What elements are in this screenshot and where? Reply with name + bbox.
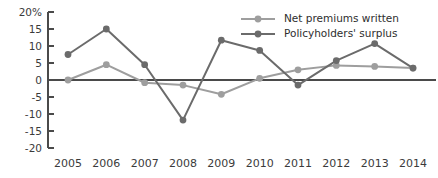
- x-tick-label: 2014: [399, 157, 427, 170]
- x-tick-label: 2013: [361, 157, 389, 170]
- y-tick-label: -15: [25, 125, 42, 137]
- y-tick-label: 0: [35, 74, 42, 86]
- data-point: [256, 47, 263, 54]
- y-tick-label: -5: [32, 91, 42, 103]
- x-tick-label: 2008: [169, 157, 197, 170]
- y-tick-label: 15: [29, 23, 42, 35]
- y-tick-label: -20: [25, 142, 42, 154]
- chart-canvas: 20%151050-5-10-15-20 2005200620072008200…: [0, 0, 438, 178]
- y-tick-label: 5: [35, 57, 42, 69]
- data-point: [371, 63, 378, 70]
- data-point: [295, 82, 302, 89]
- data-point: [141, 79, 148, 86]
- y-tick-labels: 20%151050-5-10-15-20: [19, 6, 42, 154]
- x-tick-labels: 2005200620072008200920102011201220132014: [54, 157, 427, 170]
- data-point: [333, 57, 340, 64]
- y-tick-label: -10: [25, 108, 42, 120]
- x-tick-label: 2005: [54, 157, 82, 170]
- legend-label: Policyholders' surplus: [284, 27, 398, 39]
- data-point: [180, 117, 187, 124]
- data-point: [218, 91, 225, 98]
- data-point: [410, 65, 417, 72]
- data-point: [218, 37, 225, 44]
- legend-label: Net premiums written: [284, 12, 399, 24]
- data-point: [256, 75, 263, 82]
- x-tick-label: 2011: [284, 157, 312, 170]
- data-point: [295, 66, 302, 73]
- series-line-2: [68, 29, 413, 120]
- x-tick-label: 2009: [207, 157, 235, 170]
- y-tick-label: 20%: [19, 6, 42, 18]
- series-lines: [68, 29, 413, 120]
- y-tick-label: 10: [29, 40, 42, 52]
- data-point: [180, 82, 187, 89]
- x-tick-label: 2007: [131, 157, 159, 170]
- line-chart: 20%151050-5-10-15-20 2005200620072008200…: [0, 0, 438, 178]
- x-tick-label: 2012: [322, 157, 350, 170]
- data-point: [141, 61, 148, 68]
- data-point: [65, 51, 72, 58]
- x-tick-label: 2010: [246, 157, 274, 170]
- data-point: [103, 61, 110, 68]
- legend-swatch-marker: [255, 31, 262, 38]
- legend-swatch-marker: [255, 16, 262, 23]
- chart-legend: Net premiums writtenPolicyholders' surpl…: [241, 12, 399, 39]
- data-point: [371, 40, 378, 47]
- data-point: [103, 26, 110, 33]
- data-point: [65, 77, 72, 84]
- x-tick-label: 2006: [92, 157, 120, 170]
